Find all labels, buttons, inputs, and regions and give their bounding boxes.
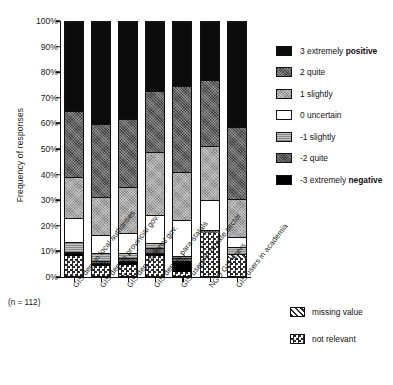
legend-label: -1 slightly [300, 132, 335, 142]
y-tick-mark [56, 71, 60, 73]
legend-label: -2 quite [300, 153, 328, 163]
legend-swatch-slm1 [276, 132, 292, 142]
legend-row: 2 quite [276, 62, 393, 84]
legend-row: missing value [290, 298, 393, 325]
legend-label: 0 uncertain [300, 110, 341, 120]
x-tick-label: GIS dep. national gov. [125, 223, 179, 289]
legend-swatch-missing [290, 307, 305, 317]
legend-row: 3 extremely positive [276, 40, 393, 62]
x-tick-mark [128, 278, 129, 282]
legend-row: -1 slightly [276, 126, 393, 148]
legend-label: missing value [312, 307, 363, 317]
x-tick-mark [74, 278, 75, 282]
legend-swatch-pos3 [276, 46, 292, 56]
legend-swatch-unc0 [276, 110, 292, 120]
x-tick-mark [182, 278, 183, 282]
sample-size-note: (n = 112) [8, 298, 40, 307]
legend-row: -3 extremely negative [276, 169, 393, 191]
y-tick-mark [56, 123, 60, 125]
legend-extra: missing valuenot relevant [290, 298, 393, 352]
y-tick-mark [56, 97, 60, 99]
x-tick-mark [155, 278, 156, 282]
x-tick-mark [101, 278, 102, 282]
legend-row: 0 uncertain [276, 105, 393, 127]
legend-label: 1 slightly [300, 89, 333, 99]
legend-row: -2 quite [276, 148, 393, 170]
legend-label: 2 quite [300, 67, 325, 77]
y-tick-mark [56, 20, 60, 22]
y-tick-mark [56, 174, 60, 176]
y-tick-mark [56, 251, 60, 253]
x-tick-mark [210, 278, 211, 282]
legend-swatch-neg3 [276, 175, 292, 185]
legend-swatch-sl1 [276, 89, 292, 99]
stacked-bar-chart: Frequency of responses 100%90%80%70%60%5… [0, 0, 393, 385]
y-tick-mark [56, 46, 60, 48]
y-tick-mark [56, 225, 60, 227]
legend-row: 1 slightly [276, 83, 393, 105]
legend-label: 3 extremely positive [300, 46, 377, 56]
y-tick-mark [56, 276, 60, 278]
x-tick-label: GIS users in academia [234, 222, 290, 290]
y-tick-mark [56, 148, 60, 150]
legend-swatch-quite2 [276, 67, 292, 77]
legend-swatch-notrel [290, 334, 305, 344]
x-tick-mark [237, 278, 238, 282]
legend-swatch-quitem2 [276, 153, 292, 163]
legend-label: -3 extremely negative [300, 175, 382, 185]
y-tick-mark [56, 199, 60, 201]
legend-row: not relevant [290, 325, 393, 352]
legend-label: not relevant [312, 334, 356, 344]
legend-scale: 3 extremely positive2 quite1 slightly0 u… [276, 40, 393, 191]
